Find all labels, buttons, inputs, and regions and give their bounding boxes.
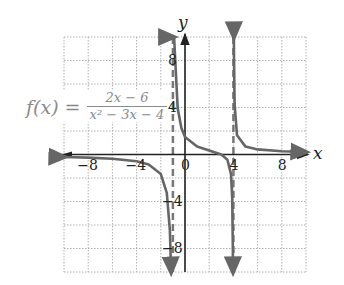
y-axis-label: y	[178, 12, 188, 32]
x-tick-label: −8	[77, 157, 98, 173]
formula-numerator: 2x − 6	[102, 91, 151, 105]
y-tick-label: 4	[168, 99, 177, 115]
x-tick-label: −4	[126, 157, 147, 173]
x-tick-label: 8	[278, 157, 287, 173]
y-tick-label: −4	[162, 193, 183, 209]
x-tick-label: 0	[181, 157, 190, 173]
formula-fraction: 2x − 6 x² − 3x − 4	[87, 91, 168, 122]
x-axis-label: x	[313, 143, 323, 163]
formula-lhs: f(x) =	[26, 96, 81, 118]
x-tick-label: 4	[229, 157, 238, 173]
formula-denominator: x² − 3x − 4	[87, 108, 168, 122]
function-formula: f(x) = 2x − 6 x² − 3x − 4	[24, 91, 169, 122]
y-tick-label: −8	[162, 240, 183, 256]
axes	[62, 34, 308, 272]
y-tick-label: 8	[168, 52, 177, 68]
